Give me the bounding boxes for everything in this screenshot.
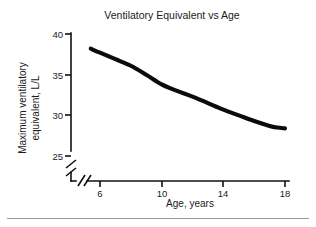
y-tick-label-35: 35 (52, 70, 63, 81)
x-axis-label: Age, years (166, 198, 214, 209)
y-axis-label-line2: equivalent, L/L (30, 75, 41, 140)
x-tick-label-6: 6 (97, 188, 102, 199)
figure-container: Ventilatory Equivalent vs Age Maximum ve… (0, 0, 316, 227)
chart-title: Ventilatory Equivalent vs Age (104, 9, 240, 21)
y-axis-label: Maximum ventilatory equivalent, L/L (17, 62, 41, 154)
footer-divider (7, 218, 309, 219)
y-tick-label-40: 40 (52, 29, 63, 40)
ventilatory-equivalent-chart: Ventilatory Equivalent vs Age Maximum ve… (0, 0, 316, 227)
x-axis-ticks (100, 181, 285, 187)
data-curve-series-0 (91, 49, 285, 129)
y-tick-label-30: 30 (52, 110, 63, 121)
x-tick-label-10: 10 (157, 188, 168, 199)
x-tick-label-14: 14 (218, 188, 229, 199)
x-tick-label-18: 18 (280, 188, 291, 199)
y-axis-label-line1: Maximum ventilatory (17, 62, 28, 154)
y-tick-label-25: 25 (52, 151, 63, 162)
y-axis-ticks (65, 34, 71, 156)
